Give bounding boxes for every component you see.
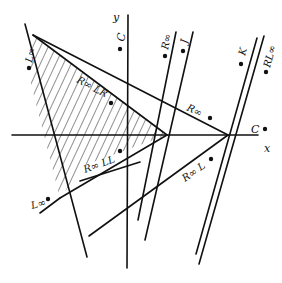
dot-J [181, 49, 185, 53]
dot-K [239, 62, 243, 66]
dot-RL-inf [264, 70, 268, 74]
label-K: K [236, 46, 249, 58]
label-RL-inf: RL∞ [261, 44, 278, 70]
diagram-canvas: x y C L∞ R∞ LR R∞ J K RL∞ R∞ C R∞ LL L∞ … [0, 0, 282, 283]
label-J: J [178, 37, 190, 46]
dot-L-inf-bottom [46, 197, 50, 201]
dot-C-top [118, 47, 122, 51]
dot-R-inf-LL [118, 149, 122, 153]
label-R-inf-L: R∞ L [179, 160, 207, 185]
dot-L-inf [27, 66, 31, 70]
y-axis [127, 15, 128, 268]
dot-R-inf-top [163, 54, 167, 58]
dot-C-right [263, 127, 267, 131]
hatched-region [30, 35, 167, 198]
dot-R-inf-mid [208, 116, 212, 120]
dot-R-inf-L [209, 157, 213, 161]
dot-R-inf-LR [109, 101, 113, 105]
label-R-inf-mid: R∞ [184, 101, 204, 118]
label-R-inf-top: R∞ [159, 33, 173, 52]
K-RL-line-left [196, 38, 257, 254]
label-C-top: C [114, 31, 129, 43]
y-axis-label: y [112, 11, 120, 24]
x-axis-label: x [264, 142, 271, 155]
label-C-right: C [251, 123, 260, 136]
K-RL-line-right [199, 36, 264, 264]
phase-diagram: x y C L∞ R∞ LR R∞ J K RL∞ R∞ C R∞ LL L∞ … [0, 0, 282, 283]
